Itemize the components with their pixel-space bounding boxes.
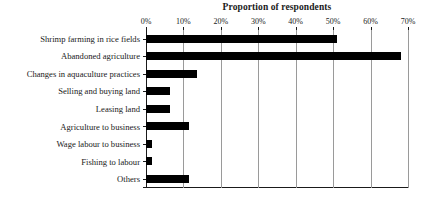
bar	[146, 175, 189, 183]
bar-row	[146, 30, 408, 47]
chart-title: Proportion of respondents	[146, 2, 408, 12]
bar-row	[146, 65, 408, 82]
y-category-label: Shrimp farming in rice fields	[40, 34, 140, 44]
y-tick-mark	[143, 56, 146, 57]
x-tick-label: 0%	[141, 17, 152, 26]
x-tick-label: 30%	[251, 17, 266, 26]
y-category-label: Wage labour to business	[56, 139, 140, 149]
bar-row	[146, 83, 408, 100]
y-tick-mark	[143, 126, 146, 127]
y-tick-mark	[143, 39, 146, 40]
bar-row	[146, 135, 408, 152]
x-tick-label: 40%	[288, 17, 303, 26]
y-tick-mark	[143, 161, 146, 162]
y-tick-mark	[143, 91, 146, 92]
y-tick-mark	[143, 187, 146, 188]
x-tick-label: 20%	[214, 17, 229, 26]
bar	[146, 35, 337, 43]
bar	[146, 87, 170, 95]
y-category-label: Selling and buying land	[58, 86, 140, 96]
y-tick-mark	[143, 144, 146, 145]
x-tick-label: 60%	[363, 17, 378, 26]
bar	[146, 52, 401, 60]
plot-area	[146, 30, 408, 188]
bar	[146, 70, 197, 78]
bar-row	[146, 100, 408, 117]
y-tick-mark	[143, 179, 146, 180]
bar-row	[146, 153, 408, 170]
bar	[146, 140, 152, 148]
bar	[146, 105, 170, 113]
x-tick-mark	[408, 27, 409, 30]
y-category-label: Abandoned agriculture	[61, 51, 140, 61]
gridline	[408, 30, 409, 188]
y-category-label: Fishing to labour	[81, 157, 140, 167]
bar-row	[146, 118, 408, 135]
x-axis-tick-labels: 0%10%20%30%40%50%60%70%	[0, 17, 426, 29]
x-tick-label: 10%	[176, 17, 191, 26]
y-category-label: Changes in aquaculture practices	[27, 69, 140, 79]
bar	[146, 122, 189, 130]
y-category-label: Agriculture to business	[60, 122, 140, 132]
y-tick-mark	[143, 74, 146, 75]
y-category-label: Leasing land	[96, 104, 140, 114]
y-tick-mark	[143, 109, 146, 110]
bar-row	[146, 170, 408, 187]
bar-row	[146, 48, 408, 65]
x-tick-label: 70%	[401, 17, 416, 26]
y-category-label: Others	[117, 174, 140, 184]
x-tick-label: 50%	[326, 17, 341, 26]
y-axis-category-labels: Shrimp farming in rice fieldsAbandoned a…	[0, 30, 143, 188]
bar	[146, 157, 152, 165]
chart-figure: Proportion of respondents 0%10%20%30%40%…	[0, 0, 426, 201]
